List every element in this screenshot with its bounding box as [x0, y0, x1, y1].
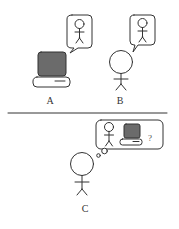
diagram-canvas	[0, 0, 179, 229]
question-mark: ?	[148, 133, 152, 143]
label-c: C	[82, 203, 89, 214]
thought-bubble-c	[96, 120, 163, 157]
label-b: B	[117, 95, 124, 106]
computer-icon-a	[33, 52, 70, 87]
speech-bubble-b	[130, 15, 155, 52]
label-a: A	[46, 95, 53, 106]
speech-bubble-a	[67, 15, 92, 53]
person-figure-c	[71, 153, 94, 196]
person-figure-b	[110, 51, 133, 91]
